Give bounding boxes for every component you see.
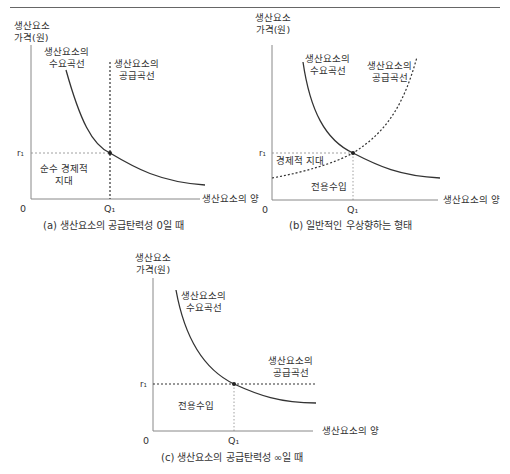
panel-b-equilibrium-point [351,151,355,155]
panel-b-caption: (b) 일반적인 우상향하는 형태 [289,220,412,232]
panel-b-y-axis-label: 생산요소가격(원) [255,12,291,36]
panel-b-supply-label: 생산요소의공급곡선 [367,60,412,84]
panel-c-caption: (c) 생산요소의 공급탄력성 ∞일 때 [161,452,303,464]
panel-b-graph [272,45,440,200]
panel-a-q1-tick: Q₁ [104,203,115,215]
panel-b-demand-label: 생산요소의수요곡선 [305,53,350,77]
panel-a-rent-area-label: 순수 경제적지대 [40,163,88,187]
diagram-canvas [0,0,510,474]
panel-c-demand-label: 생산요소의수요곡선 [181,290,226,314]
panel-b-origin: 0 [262,204,268,216]
panel-a-r1-tick: r₁ [17,147,24,159]
panel-a-origin: 0 [20,203,26,215]
panel-a-demand-label: 생산요소의수요곡선 [44,46,89,70]
panel-a-y-axis-label: 생산요소가격(원) [14,20,50,44]
panel-c-x-axis-label: 생산요소의 양 [322,425,379,437]
panel-c-transfer-label: 전용수입 [178,400,214,412]
panel-b-r1-tick: r₁ [259,147,266,159]
panel-b-rent-label: 경제적 지대 [276,155,324,167]
panel-a-x-axis-label: 생산요소의 양 [202,193,259,205]
panel-c-q1-tick: Q₁ [228,435,239,447]
panel-c-y-axis-label: 생산요소가격(원) [135,252,171,276]
panel-b-q1-tick: Q₁ [347,204,358,216]
panel-c-origin: 0 [143,435,149,447]
panel-a-supply-label: 생산요소의공급곡선 [114,58,159,82]
panel-c-supply-label: 생산요소의공급곡선 [268,355,313,379]
panel-c-equilibrium-point [232,382,236,386]
panel-b-x-axis-label: 생산요소의 양 [443,194,500,206]
panel-a-equilibrium-point [108,151,112,155]
panel-a-caption: (a) 생산요소의 공급탄력성 0일 때 [43,220,184,232]
panel-b-transfer-label: 전용수입 [311,181,347,193]
panel-c-r1-tick: r₁ [140,378,147,390]
